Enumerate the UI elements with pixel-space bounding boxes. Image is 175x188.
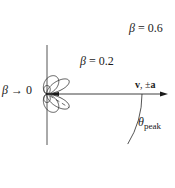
beta-value: = 0.6 [135,21,163,35]
axis-separator: , ± [140,79,151,90]
label-beta-06: β = 0.6 [129,22,163,34]
beta-value: = 0.2 [86,54,114,68]
acceleration-symbol: a [151,79,156,90]
label-beta-0: β → 0 [2,84,32,96]
label-theta-peak: θpeak [138,116,161,131]
theta-subscript: peak [144,121,161,131]
beta-value: → 0 [8,83,32,97]
label-beta-02: β = 0.2 [80,55,114,67]
label-axis-v-a: v, ±a [135,80,156,90]
arrowhead-icon [160,92,168,97]
